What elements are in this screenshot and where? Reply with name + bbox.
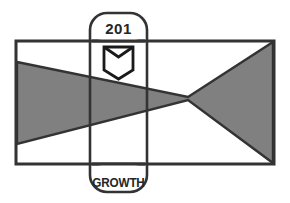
growth-201-logo: 201 GROWTH xyxy=(0,0,290,203)
tab-number-label: 201 xyxy=(105,20,132,37)
emblem-outline xyxy=(104,47,133,79)
tab-wordmark-label: GROWTH xyxy=(92,176,144,190)
open-book-emblem xyxy=(104,47,133,79)
logo-canvas: 201 GROWTH xyxy=(0,0,290,203)
